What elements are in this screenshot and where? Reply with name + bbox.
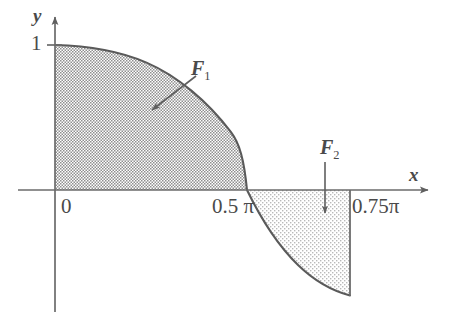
y-tick-label-1: 1 — [31, 33, 42, 54]
x-tick-label-three-quarter-pi: 0.75π — [352, 196, 399, 217]
y-axis-label: y — [33, 6, 41, 25]
x-tick-label-0: 0 — [61, 196, 72, 217]
region-label-F2: F2 — [320, 137, 340, 161]
cosine-area-plot — [0, 0, 451, 334]
region-label-F1-base: F — [191, 57, 204, 79]
region-label-F1-subscript: 1 — [204, 69, 210, 83]
region-label-F2-base: F — [320, 136, 333, 158]
x-axis-label: x — [409, 165, 419, 184]
region-label-F2-subscript: 2 — [333, 148, 339, 162]
area-F2 — [247, 190, 350, 296]
region-label-F1: F1 — [191, 58, 211, 82]
area-F2-fill — [247, 190, 350, 296]
x-tick-label-half-pi: 0.5 π — [212, 196, 254, 217]
figure-container: y 1 0 0.5 π 0.75π x F1 F2 — [0, 0, 451, 334]
